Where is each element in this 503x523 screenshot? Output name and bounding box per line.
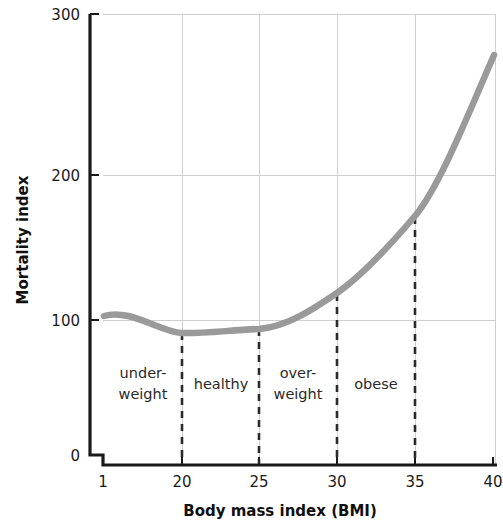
xtick-label-35: 35 [405,473,424,491]
axis-titles: Mortality index Body mass index (BMI) [14,175,377,520]
y-axis-tick-labels: 300 200 100 0 [51,6,80,465]
xtick-label-40: 40 [483,473,502,491]
band-label-underweight-line2: weight [119,386,168,402]
band-label-underweight-line1: under- [120,365,167,381]
y-axis-title: Mortality index [14,175,32,304]
band-label-overweight-line1: over- [280,365,317,381]
chart-canvas: 300 200 100 0 1 20 25 30 35 40 und [0,0,503,523]
ytick-label-300: 300 [51,6,80,24]
x-axis-title: Body mass index (BMI) [183,502,377,520]
mortality-curve [104,55,494,333]
xtick-label-30: 30 [327,473,346,491]
xtick-label-25: 25 [249,473,268,491]
xtick-label-1: 1 [98,473,108,491]
bmi-mortality-chart: 300 200 100 0 1 20 25 30 35 40 und [0,0,503,523]
mortality-curve-group [104,55,494,333]
ytick-label-0: 0 [70,447,80,465]
x-axis-tick-labels: 1 20 25 30 35 40 [98,473,502,491]
ytick-label-100: 100 [51,312,80,330]
band-label-overweight-line2: weight [274,386,323,402]
ytick-label-200: 200 [51,167,80,185]
band-label-obese: obese [354,376,398,392]
band-label-healthy: healthy [194,376,249,392]
xtick-label-20: 20 [172,473,191,491]
